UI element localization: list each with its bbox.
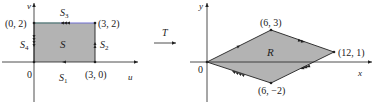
vertex-label: (0, 2): [5, 18, 27, 30]
side-label-s4: S4: [20, 39, 29, 52]
left-panel: (0, 2) (3, 2) (3, 0) 0 S u v S1 S2 S3 S4: [2, 1, 138, 102]
origin-label: 0: [27, 69, 32, 80]
origin-label: 0: [198, 64, 203, 75]
vertex-label: (12, 1): [338, 47, 365, 59]
side-label-s3: S3: [60, 7, 69, 20]
vertex-label: (3, 2): [98, 18, 120, 30]
y-axis-label: y: [198, 1, 203, 11]
transform-arrow: T: [154, 27, 176, 43]
vertex-label: (6, 3): [260, 17, 282, 29]
vertex-label: (6, −2): [258, 85, 285, 97]
right-panel: (6, 3) (12, 1) (6, −2) 0 R x y: [190, 1, 372, 102]
transform-label: T: [162, 27, 169, 38]
region-label: S: [60, 38, 66, 50]
x-axis-label: x: [357, 68, 362, 78]
region-label: R: [266, 46, 274, 58]
u-axis-label: u: [128, 72, 133, 82]
transformation-diagram: (0, 2) (3, 2) (3, 0) 0 S u v S1 S2 S3 S4…: [0, 0, 374, 107]
side-label-s2: S2: [100, 39, 109, 52]
v-axis-label: v: [27, 1, 31, 11]
vertex-label: (3, 0): [85, 69, 107, 81]
side-label-s1: S1: [59, 72, 68, 85]
